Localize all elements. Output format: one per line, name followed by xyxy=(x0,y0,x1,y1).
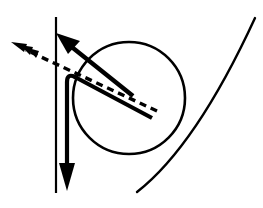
dashed-direction-line xyxy=(26,50,157,111)
diagram-canvas xyxy=(0,0,263,208)
dashed-arrowhead xyxy=(11,42,39,58)
diagram-svg xyxy=(0,0,263,208)
down-arrowhead xyxy=(59,163,75,191)
right-curve-arc xyxy=(137,18,255,192)
